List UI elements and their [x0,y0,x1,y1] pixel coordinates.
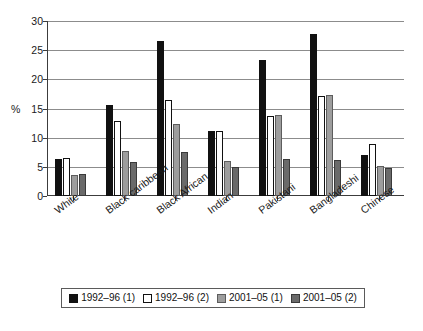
bar-group [200,21,251,196]
bar [55,159,62,196]
bar [165,100,172,196]
legend-item: 2001–05 (2) [287,293,361,303]
legend-label: 1992–96 (2) [155,293,209,303]
chart-legend: 1992–96 (1)1992–96 (2)2001–05 (1)2001–05… [61,288,365,308]
legend-swatch [291,294,300,303]
bar [369,144,376,196]
bar-group [47,21,98,196]
bar [326,95,333,196]
bar [275,115,282,196]
legend-label: 1992–96 (1) [81,293,135,303]
legend-item: 1992–96 (1) [65,293,139,303]
bar [232,167,239,196]
legend-item: 2001–05 (1) [213,293,287,303]
y-axis-tick-label: 30 [23,16,43,27]
y-axis-tick-label: 0 [23,191,43,202]
y-axis-tick-mark [43,79,47,80]
bar [361,155,368,196]
y-axis-tick-label: 20 [23,74,43,85]
bar [63,158,70,196]
legend-item: 1992–96 (2) [139,293,213,303]
y-axis-tick-label: 15 [23,103,43,114]
bar-group [251,21,302,196]
bar-chart: % 051015202530 1992–96 (1)1992–96 (2)200… [0,0,423,331]
bar [259,60,266,197]
legend-label: 2001–05 (1) [229,293,283,303]
bar [114,121,121,196]
bar [79,174,86,196]
y-axis-tick-labels: 051015202530 [19,21,43,196]
bar [267,116,274,196]
y-axis-tick-mark [43,138,47,139]
bar [216,131,223,196]
y-axis-tick-label: 10 [23,132,43,143]
y-axis-tick-mark [43,50,47,51]
bar [106,105,113,196]
bar [318,96,325,196]
bar [173,124,180,196]
y-axis-tick-label: 5 [23,162,43,173]
legend-label: 2001–05 (2) [303,293,357,303]
legend-swatch [217,294,226,303]
y-axis-tick-mark [43,196,47,197]
bar [310,34,317,196]
bar-group [98,21,149,196]
bar [208,131,215,196]
bar-group [353,21,404,196]
y-axis-tick-mark [43,109,47,110]
legend-swatch [143,294,152,303]
bar-group [302,21,353,196]
legend-swatch [69,294,78,303]
bar-groups-layer [47,21,404,196]
y-axis-tick-label: 25 [23,45,43,56]
y-axis-tick-mark [43,167,47,168]
y-axis-tick-mark [43,21,47,22]
